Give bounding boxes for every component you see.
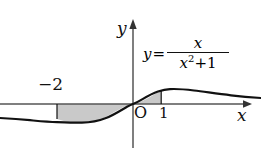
equation-annotation: y = x x2+1 — [143, 36, 229, 71]
denominator-base: x — [180, 54, 188, 72]
origin-label: O — [134, 105, 147, 121]
equation-equals-sign: = — [152, 45, 167, 63]
fraction-denominator: x2+1 — [176, 53, 221, 71]
tick-label-one: 1 — [159, 106, 169, 121]
y-axis — [129, 19, 136, 148]
y-axis-label: y — [117, 20, 127, 37]
function-curve — [0, 89, 261, 123]
denominator-tail: +1 — [194, 54, 216, 72]
x-axis-label: x — [237, 107, 247, 124]
equation-left-side: y — [143, 45, 152, 63]
shaded-region-left — [57, 104, 133, 123]
tick-label-minus-two: −2 — [38, 76, 63, 93]
math-figure: y x O 1 −2 y = x x2+1 — [0, 0, 261, 157]
equation-fraction: x x2+1 — [167, 36, 229, 71]
fraction-numerator: x — [188, 36, 208, 52]
